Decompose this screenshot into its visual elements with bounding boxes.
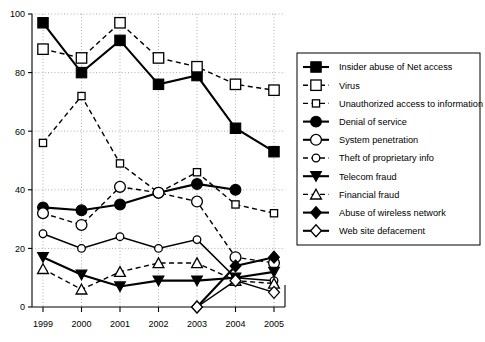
data-point-open-circle-small [155,245,163,253]
legend-item-label: Insider abuse of Net access [339,62,453,72]
x-tick-label: 1999 [33,319,53,329]
data-point-open-circle-small [312,154,320,162]
y-tick-label: 20 [15,244,25,254]
data-point-open-circle [192,196,203,207]
legend-item[interactable]: Denial of service [303,116,407,127]
data-point-filled-circle [311,116,322,127]
data-point-open-circle [153,187,164,198]
legend-item-label: Web site defacement [339,226,426,236]
legend-item-label: System penetration [339,135,418,145]
data-point-open-circle-small [193,236,201,244]
data-point-open-square-small [312,100,319,107]
y-tick-label: 0 [20,302,25,312]
data-point-open-square [38,44,48,54]
legend-item[interactable]: Financial fraud [303,189,399,200]
data-point-filled-square [153,79,163,89]
data-point-filled-square [269,147,279,157]
data-point-filled-circle [115,199,126,210]
open-square-icon [311,80,321,90]
legend-item-label: Telecom fraud [339,172,397,182]
data-point-open-square-small [78,92,85,99]
data-point-open-square [76,53,86,63]
line-chart: 0204060801001999200020012002200320042005… [0,0,485,342]
open-circle-icon [311,134,322,145]
y-tick-label: 80 [15,68,25,78]
data-point-open-square-small [232,201,239,208]
data-point-filled-circle [76,205,87,216]
chart-legend: Insider abuse of Net accessVirusUnauthor… [297,53,483,245]
data-point-filled-square [230,123,240,133]
data-point-open-square [153,53,163,63]
data-point-open-square-small [270,210,277,217]
x-tick-label: 2001 [110,319,130,329]
figure-container: 0204060801001999200020012002200320042005… [0,0,485,342]
y-tick-label: 60 [15,127,25,137]
data-point-open-triangle [192,258,203,268]
x-tick-label: 2003 [187,319,207,329]
x-tick-label: 2000 [71,319,91,329]
legend-item-label: Virus [339,81,360,91]
data-point-open-circle-small [78,245,86,253]
x-tick-label: 2005 [264,319,284,329]
data-point-filled-triangle [38,253,49,263]
series-line [43,184,236,210]
data-point-open-triangle [76,284,87,294]
data-point-open-circle [115,181,126,192]
legend-item-label: Theft of proprietary info [339,153,434,163]
data-point-open-triangle [38,264,49,274]
open-circle-small-icon [312,154,320,162]
legend-item-label: Unauthorized access to information [339,99,483,109]
data-point-open-circle [76,220,87,231]
data-point-open-circle-small [116,233,124,241]
data-point-open-square [269,85,279,95]
data-point-filled-circle [192,179,203,190]
legend-item[interactable]: Telecom fraud [303,172,397,182]
data-point-open-circle-small [39,230,47,238]
data-point-filled-square [311,62,321,72]
data-point-open-square [192,62,202,72]
data-point-open-square [115,18,125,28]
y-tick-label: 40 [15,185,25,195]
y-tick-label: 100 [10,9,25,19]
data-point-open-square-small [39,139,46,146]
legend-item-label: Financial fraud [339,190,399,200]
data-point-open-square-small [116,160,123,167]
x-tick-label: 2002 [148,319,168,329]
open-square-small-icon [312,100,319,107]
data-point-filled-square [76,67,86,77]
data-point-filled-circle [230,184,241,195]
x-tick-label: 2004 [225,319,245,329]
data-point-filled-square [38,18,48,28]
data-point-open-square [230,79,240,89]
legend-item-label: Denial of service [339,117,407,127]
series-5 [38,181,280,268]
data-point-open-square [311,80,321,90]
filled-square-icon [311,62,321,72]
data-point-open-square-small [193,169,200,176]
data-point-open-circle [38,208,49,219]
data-point-filled-square [115,35,125,45]
data-point-open-circle [311,134,322,145]
filled-circle-icon [311,116,322,127]
legend-item[interactable]: System penetration [303,134,418,145]
legend-item-label: Abuse of wireless network [339,208,446,218]
